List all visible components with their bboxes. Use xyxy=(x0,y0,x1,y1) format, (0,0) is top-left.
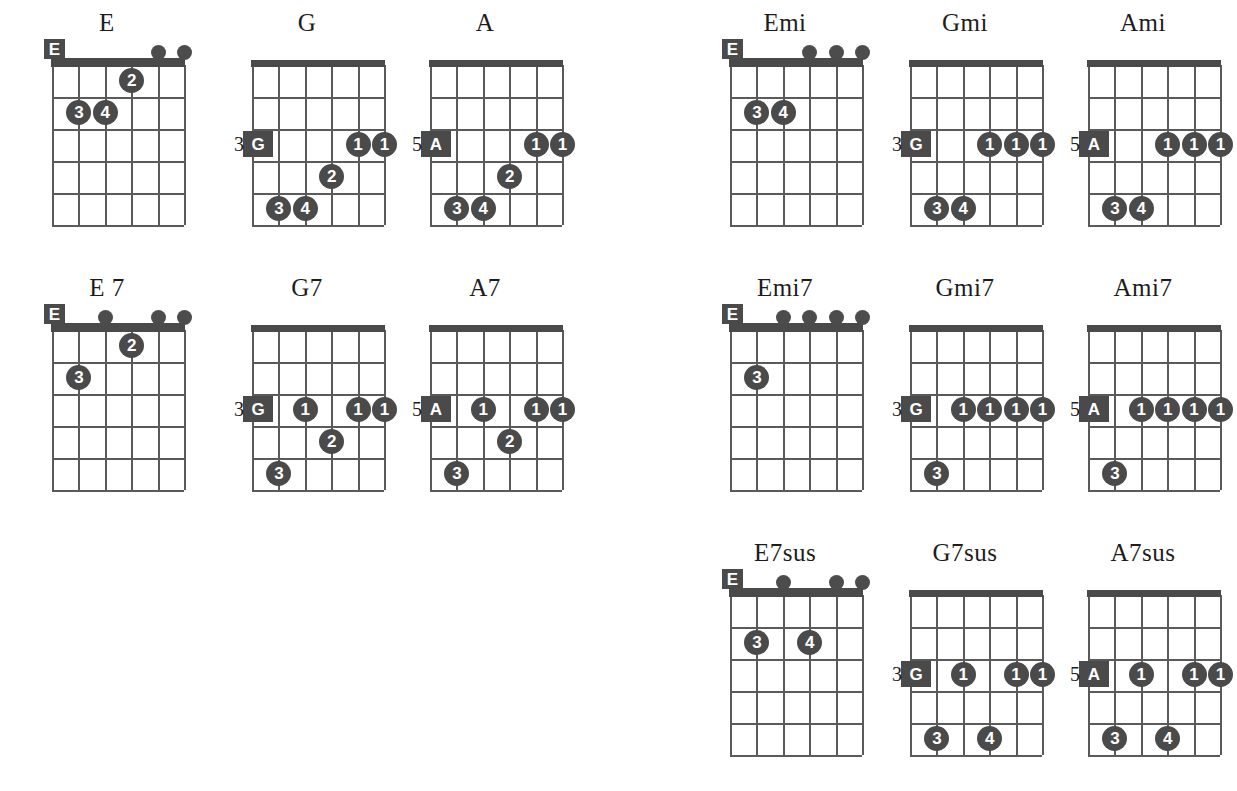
fret-line xyxy=(910,161,1042,163)
chord-diagram-a: AA511234 xyxy=(390,10,580,240)
fret-line xyxy=(252,426,384,428)
finger-marker: 1 xyxy=(1155,397,1180,422)
root-note-label: G xyxy=(901,661,931,687)
open-string-dot xyxy=(98,310,113,325)
string-line xyxy=(184,330,186,490)
fret-line xyxy=(1088,426,1220,428)
fret-line xyxy=(910,362,1042,364)
chord-title: A7sus xyxy=(1048,540,1237,565)
open-string-dot xyxy=(829,45,844,60)
fret-line xyxy=(252,193,384,195)
fret-top-bar xyxy=(909,325,1043,332)
fret-line xyxy=(730,691,862,693)
nut-bar xyxy=(729,588,863,597)
finger-marker: 2 xyxy=(497,429,522,454)
string-line xyxy=(509,330,511,490)
chord-title: E7sus xyxy=(690,540,880,565)
finger-marker: 4 xyxy=(1155,726,1180,751)
fret-line xyxy=(910,723,1042,725)
fret-top-bar xyxy=(251,325,385,332)
finger-marker: 1 xyxy=(1129,397,1154,422)
fret-line xyxy=(730,458,862,460)
fret-line xyxy=(252,490,384,492)
root-note-label: E xyxy=(44,304,65,324)
root-note-label: E xyxy=(44,39,65,59)
fretboard-grid: G311134 xyxy=(910,595,1042,755)
root-note-label: A xyxy=(421,131,451,157)
chord-diagram-emi7: Emi7E3 xyxy=(690,275,880,505)
chord-title: Ami7 xyxy=(1048,275,1237,300)
finger-marker: 1 xyxy=(550,397,575,422)
fretboard-grid: E234 xyxy=(52,65,184,225)
chord-diagram-e7: E 7E23 xyxy=(12,275,202,505)
root-note-label: E xyxy=(722,39,743,59)
finger-marker: 3 xyxy=(66,100,91,125)
chord-diagram-ami7: Ami7A511113 xyxy=(1048,275,1237,505)
fret-line xyxy=(252,225,384,227)
fret-top-bar xyxy=(1087,590,1221,597)
fret-line xyxy=(910,426,1042,428)
fret-top-bar xyxy=(1087,60,1221,67)
fret-top-bar xyxy=(1087,325,1221,332)
fret-position-number: 5 xyxy=(402,134,422,154)
fretboard-grid: G311123 xyxy=(252,330,384,490)
root-note-label: A xyxy=(1079,396,1109,422)
finger-marker: 4 xyxy=(1129,196,1154,221)
root-note-label: G xyxy=(243,131,273,157)
fret-line xyxy=(252,97,384,99)
string-line xyxy=(78,330,80,490)
finger-marker: 1 xyxy=(1004,662,1029,687)
chord-title: G xyxy=(212,10,402,35)
root-note-label: A xyxy=(421,396,451,422)
fret-position-number: 5 xyxy=(402,399,422,419)
chord-title: A7 xyxy=(390,275,580,300)
finger-marker: 4 xyxy=(977,726,1002,751)
fret-line xyxy=(52,426,184,428)
string-line xyxy=(756,65,758,225)
open-string-dot xyxy=(829,310,844,325)
fret-line xyxy=(730,394,862,396)
string-line xyxy=(105,65,107,225)
string-line xyxy=(730,330,732,490)
fret-line xyxy=(430,193,562,195)
fret-line xyxy=(430,362,562,364)
finger-marker: 1 xyxy=(1208,132,1233,157)
fret-line xyxy=(430,426,562,428)
finger-marker: 3 xyxy=(444,196,469,221)
chord-diagram-ami: AmiA511134 xyxy=(1048,10,1237,240)
finger-marker: 3 xyxy=(1102,461,1127,486)
finger-marker: 1 xyxy=(1182,662,1207,687)
chord-title: Emi7 xyxy=(690,275,880,300)
fret-top-bar xyxy=(251,60,385,67)
finger-marker: 2 xyxy=(497,164,522,189)
string-line xyxy=(331,330,333,490)
open-string-dot xyxy=(151,45,166,60)
fret-line xyxy=(1088,362,1220,364)
root-note-label: A xyxy=(1079,661,1109,687)
fret-line xyxy=(1088,490,1220,492)
string-line xyxy=(836,330,838,490)
fret-top-bar xyxy=(429,325,563,332)
root-note-label: E xyxy=(722,569,743,589)
chord-title: G7sus xyxy=(870,540,1060,565)
fret-line xyxy=(730,193,862,195)
fretboard-grid: G311113 xyxy=(910,330,1042,490)
string-line xyxy=(836,65,838,225)
chord-diagram-e: EE234 xyxy=(12,10,202,240)
nut-bar xyxy=(729,58,863,67)
string-line xyxy=(509,65,511,225)
fret-line xyxy=(430,97,562,99)
fret-line xyxy=(910,225,1042,227)
string-line xyxy=(809,595,811,755)
finger-marker: 2 xyxy=(119,68,144,93)
string-line xyxy=(783,330,785,490)
fret-line xyxy=(910,490,1042,492)
chord-diagram-gmi: GmiG311134 xyxy=(870,10,1060,240)
fret-line xyxy=(52,97,184,99)
fret-line xyxy=(910,691,1042,693)
finger-marker: 3 xyxy=(1102,726,1127,751)
nut-bar xyxy=(51,58,185,67)
finger-marker: 2 xyxy=(319,429,344,454)
fretboard-grid: A511134 xyxy=(1088,595,1220,755)
finger-marker: 1 xyxy=(293,397,318,422)
